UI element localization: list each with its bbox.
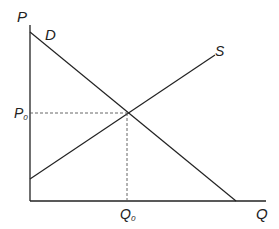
demand-label: D <box>45 26 56 43</box>
x-axis-label: Q <box>256 205 268 222</box>
equilibrium-quantity-label: Q0 <box>120 206 136 223</box>
supply-demand-diagram: P Q D S P0 Q0 <box>0 0 279 229</box>
demand-curve <box>30 32 236 201</box>
y-axis-label: P <box>17 8 27 25</box>
supply-label: S <box>215 43 225 59</box>
equilibrium-price-label: P0 <box>14 105 28 122</box>
